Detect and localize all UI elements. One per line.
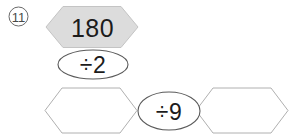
operation-ellipse-divide-2[interactable]: ÷2 — [58, 50, 128, 79]
answer-hexagon-1-shape[interactable] — [45, 88, 137, 133]
answer-hexagon-2-shape[interactable] — [196, 88, 288, 133]
answer-hexagon-1[interactable] — [45, 88, 137, 133]
operation-1-value: ÷2 — [80, 52, 106, 78]
start-hexagon: 180 — [46, 7, 138, 48]
diagram-canvas: 11 180 ÷2 ÷9 — [0, 0, 296, 134]
answer-hexagon-2[interactable] — [196, 88, 288, 133]
problem-number-label: 11 — [9, 7, 28, 26]
operation-2-value: ÷9 — [156, 99, 182, 125]
problem-number-text: 11 — [12, 10, 26, 25]
worksheet-problem: 11 180 ÷2 ÷9 — [0, 0, 296, 134]
operation-ellipse-divide-9[interactable]: ÷9 — [138, 92, 200, 130]
start-hexagon-value: 180 — [71, 14, 114, 42]
